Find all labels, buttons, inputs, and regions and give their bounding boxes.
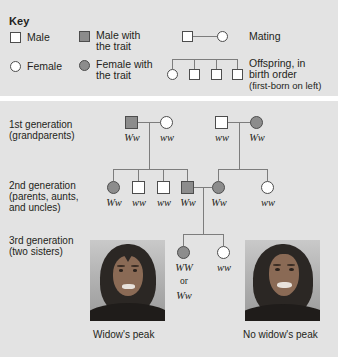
brow-right-2 xyxy=(287,264,295,266)
gen2-descent-line xyxy=(203,187,204,234)
gen3-individual-2-circle xyxy=(217,246,230,259)
pedigree-panel: 1st generation (grandparents) Ww ww ww W… xyxy=(0,101,338,357)
gen1-individual-2-circle xyxy=(160,116,173,129)
mouth-right xyxy=(277,282,292,288)
key-offspring-1-circle xyxy=(167,69,178,80)
gen2-genotype-6: ww xyxy=(253,197,283,208)
gen1-label-line1: 1st generation xyxy=(9,119,72,131)
widows-peak-photo xyxy=(90,240,165,321)
eye-left-2 xyxy=(133,269,137,272)
gen2-individual-4-square xyxy=(181,181,194,194)
key-label-female: Female xyxy=(27,61,62,73)
gen2-label-line1: 2nd generation xyxy=(9,180,76,192)
gen2-individual-6-circle xyxy=(261,181,274,194)
key-mating-male xyxy=(182,31,193,42)
gen1-genotype-4: Ww xyxy=(242,132,272,143)
gen2-genotype-4: Ww xyxy=(173,197,203,208)
gen2-individual-3-square xyxy=(157,181,170,194)
widows-peak-caption: Widow's peak xyxy=(93,329,154,340)
key-panel: Key Male Female Male with the trait Fema… xyxy=(0,0,338,96)
gen2-genotype-5: Ww xyxy=(204,197,234,208)
no-widows-peak-photo xyxy=(245,240,320,321)
key-offspring-drop-3 xyxy=(237,59,238,69)
eye-right-2 xyxy=(289,268,294,271)
key-offspring-4-square xyxy=(232,69,243,80)
key-symbol-male-with-trait xyxy=(79,31,90,42)
gen2-drop-2 xyxy=(138,169,139,181)
gen2-label-line2: (parents, aunts, xyxy=(9,191,78,203)
gen2-individual-2-square xyxy=(132,181,145,194)
brow-left-2 xyxy=(131,265,139,267)
face-right xyxy=(269,254,299,296)
gen3-sibship-line xyxy=(183,234,224,235)
key-offspring-2-square xyxy=(189,69,200,80)
gen1-genotype-1: Ww xyxy=(117,132,147,143)
gen2-label-line3: and uncles) xyxy=(9,202,61,214)
no-widows-peak-caption: No widow's peak xyxy=(243,329,318,340)
key-label-male-with-trait-line2: the trait xyxy=(96,41,131,53)
key-symbol-male xyxy=(10,32,21,43)
eye-left-1 xyxy=(119,269,123,272)
gen2-individual-5-circle xyxy=(212,181,225,194)
gen3-label-line1: 3rd generation xyxy=(9,235,74,247)
gen3-genotype-1-alt: Ww xyxy=(169,290,199,301)
gen2-b-sibship-line xyxy=(218,169,268,170)
gen2-drop-1 xyxy=(113,169,114,181)
key-title: Key xyxy=(9,15,29,27)
key-symbol-female xyxy=(10,61,21,72)
key-offspring-drop-0 xyxy=(172,59,173,69)
brow-right-1 xyxy=(273,264,281,266)
gen3-genotype-1-or: or xyxy=(169,276,199,286)
gen3-label-line2: (two sisters) xyxy=(9,246,63,258)
eye-right-1 xyxy=(275,268,280,271)
gen3-genotype-2: ww xyxy=(209,262,239,273)
gen1-label-line2: (grandparents) xyxy=(9,130,75,142)
key-mating-line xyxy=(193,36,218,37)
gen2-drop-4 xyxy=(187,169,188,181)
key-label-female-with-trait-line2: the trait xyxy=(96,70,131,82)
gen1-b-descent-line xyxy=(239,122,240,169)
gen1-individual-4-circle xyxy=(250,116,263,129)
key-label-offspring-line3: (first-born on left) xyxy=(249,80,321,92)
key-offspring-drop-2 xyxy=(216,59,217,69)
key-label-mating: Mating xyxy=(249,31,281,43)
key-mating-female xyxy=(217,31,228,42)
gen1-a-descent-line xyxy=(149,122,150,169)
gen1-genotype-3: ww xyxy=(207,132,237,143)
gen3-drop-2 xyxy=(223,234,224,246)
key-offspring-sibline xyxy=(172,59,238,60)
key-symbol-female-with-trait xyxy=(79,60,90,71)
face-left xyxy=(113,256,143,296)
key-offspring-3-square xyxy=(211,69,222,80)
gen3-genotype-1: WW xyxy=(169,262,199,273)
gen2-individual-1-circle xyxy=(107,181,120,194)
shoulder-right xyxy=(245,304,320,321)
shoulder-left xyxy=(90,303,165,321)
key-offspring-drop-1 xyxy=(194,59,195,69)
gen3-individual-1-circle xyxy=(177,246,190,259)
brow-left-1 xyxy=(117,265,125,267)
gen1-individual-1-square xyxy=(125,116,138,129)
gen1-individual-3-square xyxy=(215,116,228,129)
gen2-drop-6 xyxy=(267,169,268,181)
gen2-a-sibship-line xyxy=(113,169,188,170)
mouth-left xyxy=(122,284,135,289)
gen3-drop-1 xyxy=(183,234,184,246)
key-label-offspring-line2: birth order xyxy=(249,69,297,81)
gen2-drop-5 xyxy=(218,169,219,181)
gen2-drop-3 xyxy=(163,169,164,181)
key-label-male: Male xyxy=(27,32,50,44)
gen1-genotype-2: ww xyxy=(152,132,182,143)
